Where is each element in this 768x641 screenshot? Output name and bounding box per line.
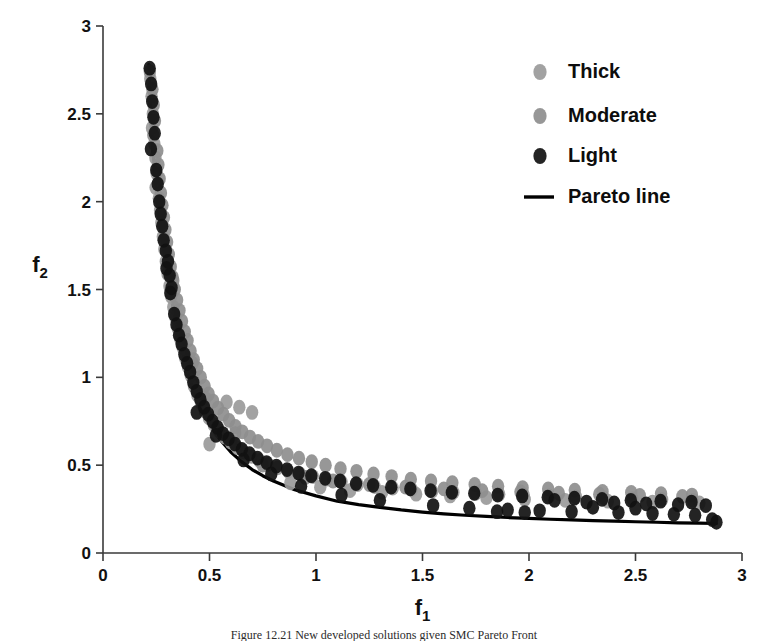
- data-point: [150, 163, 162, 178]
- data-point: [292, 466, 304, 481]
- data-point: [491, 488, 503, 503]
- x-tick-label: 0: [98, 566, 107, 585]
- data-point: [608, 496, 620, 511]
- data-point: [516, 489, 528, 504]
- data-point: [147, 110, 159, 125]
- legend-label: Thick: [568, 60, 621, 82]
- data-point: [165, 280, 177, 295]
- data-point: [145, 77, 157, 92]
- data-point: [306, 454, 318, 469]
- data-point: [335, 488, 347, 503]
- data-point: [191, 405, 203, 420]
- legend-marker-swatch: [533, 108, 546, 124]
- data-point: [265, 467, 277, 482]
- x-tick-label: 2.5: [624, 566, 648, 585]
- data-point: [568, 491, 580, 506]
- data-point: [580, 495, 592, 510]
- legend-label: Moderate: [568, 104, 657, 126]
- scatter-plot: 00.511.522.5300.511.522.53f1f2ThickModer…: [0, 0, 768, 641]
- y-tick-label: 0: [82, 544, 91, 563]
- figure-caption: Figure 12.21 New developed solutions giv…: [0, 628, 768, 641]
- data-point: [533, 503, 545, 518]
- data-point: [305, 468, 317, 483]
- data-point: [374, 493, 386, 508]
- data-point: [710, 515, 722, 530]
- data-point: [672, 497, 684, 512]
- data-point: [385, 480, 397, 495]
- data-point: [162, 254, 174, 269]
- data-point: [404, 481, 416, 496]
- y-tick-label: 3: [82, 17, 91, 36]
- data-point: [491, 504, 503, 519]
- y-tick-label: 2.5: [67, 105, 91, 124]
- data-point: [293, 451, 305, 466]
- data-point: [271, 443, 283, 458]
- data-point: [548, 493, 560, 508]
- figure-container: 00.511.522.5300.511.522.53f1f2ThickModer…: [0, 0, 768, 641]
- data-point: [502, 503, 514, 518]
- data-point: [350, 476, 362, 491]
- data-point: [654, 494, 666, 509]
- x-tick-label: 3: [737, 566, 746, 585]
- data-point: [281, 447, 293, 462]
- data-point: [281, 462, 293, 477]
- data-point: [463, 501, 475, 516]
- x-axis-title-sub: 1: [422, 607, 430, 624]
- data-point: [519, 505, 531, 520]
- data-point: [424, 483, 436, 498]
- data-point: [145, 142, 157, 157]
- data-point: [565, 504, 577, 519]
- y-tick-label: 0.5: [67, 456, 91, 475]
- y-axis-title-sub: 2: [39, 264, 47, 281]
- data-point: [246, 405, 258, 420]
- data-point: [427, 498, 439, 513]
- data-point: [237, 453, 249, 468]
- data-point: [149, 126, 161, 141]
- x-tick-label: 1: [311, 566, 320, 585]
- y-tick-label: 1.5: [67, 281, 91, 300]
- data-point: [367, 478, 379, 493]
- data-point: [685, 495, 697, 510]
- data-point: [210, 428, 222, 443]
- x-tick-label: 2: [524, 566, 533, 585]
- data-point: [629, 501, 641, 516]
- data-point: [446, 485, 458, 500]
- y-tick-label: 1: [82, 368, 91, 387]
- data-point: [319, 471, 331, 486]
- data-point: [700, 498, 712, 513]
- data-point: [468, 486, 480, 501]
- legend-marker-swatch: [533, 64, 546, 80]
- data-point: [146, 94, 158, 109]
- legend-label: Light: [568, 144, 617, 166]
- legend-label: Pareto line: [568, 185, 670, 207]
- plot-background: [0, 0, 768, 641]
- data-point: [156, 219, 168, 234]
- data-point: [295, 479, 307, 494]
- data-point: [163, 268, 175, 283]
- y-tick-label: 2: [82, 193, 91, 212]
- data-point: [152, 177, 164, 192]
- data-point: [143, 61, 155, 76]
- data-point: [689, 508, 701, 523]
- data-point: [233, 400, 245, 415]
- data-point: [334, 474, 346, 489]
- x-tick-label: 0.5: [198, 566, 222, 585]
- legend-marker-swatch: [533, 148, 546, 164]
- data-point: [640, 496, 652, 511]
- data-point: [319, 458, 331, 473]
- x-tick-label: 1.5: [411, 566, 435, 585]
